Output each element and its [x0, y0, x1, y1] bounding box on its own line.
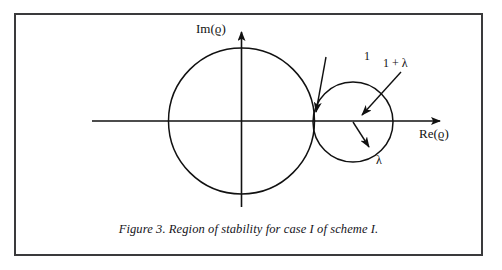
unit-point-annotation-label: 1: [364, 50, 370, 62]
imaginary-axis-label: Im(ϱ): [196, 22, 226, 35]
real-axis-label: Re(ϱ): [419, 127, 449, 140]
one-plus-lambda-annotation-label: 1 + λ: [383, 57, 408, 69]
figure-page: Im(ϱ) Re(ϱ) 1 1 + λ λ Figure 3. Region o…: [0, 0, 502, 270]
lambda-annotation-label: λ: [376, 154, 382, 166]
one-plus-lambda-arrow: [362, 72, 401, 115]
unit-point-arrow: [316, 57, 326, 112]
figure-caption: Figure 3. Region of stability for case I…: [14, 222, 483, 237]
lambda-arrow: [353, 122, 369, 147]
